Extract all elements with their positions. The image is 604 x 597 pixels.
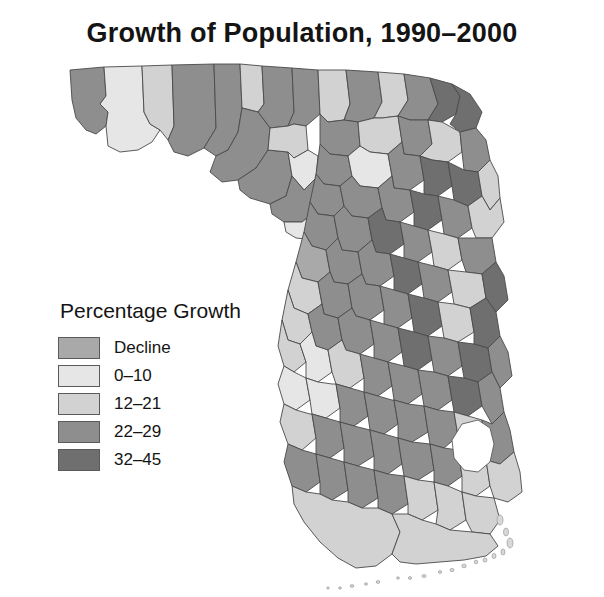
legend-swatch-0-10 (58, 365, 100, 387)
county-shape (318, 70, 350, 122)
legend-swatch-32-45 (58, 449, 100, 471)
county-shape (448, 376, 482, 416)
map-legend: Percentage Growth Decline 0–10 12–21 22–… (58, 299, 288, 475)
county-shape (306, 378, 340, 418)
county-shape (316, 454, 348, 500)
legend-item-12-21[interactable]: 12–21 (58, 391, 288, 416)
legend-swatch-decline (58, 337, 100, 359)
county-shape (420, 156, 452, 196)
county-shape (284, 444, 320, 492)
key-isle (492, 554, 496, 559)
key-isle (365, 583, 368, 585)
county-shape (336, 384, 368, 426)
legend-label: 12–21 (114, 394, 161, 414)
legend-label: 0–10 (114, 366, 152, 386)
legend-title: Percentage Growth (60, 299, 288, 323)
county-shape (374, 470, 408, 514)
key-isle (408, 577, 411, 580)
key-isle (339, 587, 342, 589)
figure-root: Growth of Population, 1990–2000 (0, 0, 604, 597)
key-isle (501, 549, 505, 555)
county-shape (468, 196, 504, 238)
key-isle (327, 587, 330, 589)
county-shape (398, 438, 434, 480)
key-isle (438, 571, 441, 574)
legend-item-32-45[interactable]: 32–45 (58, 447, 288, 472)
county-shape (434, 482, 466, 530)
key-isle (507, 538, 513, 548)
map-region-panhandle (70, 64, 332, 240)
legend-label: Decline (114, 338, 171, 358)
county-shape (410, 190, 442, 230)
legend-label: 32–45 (114, 450, 161, 470)
key-isle (474, 560, 478, 564)
key-isle (450, 568, 454, 571)
county-shape (438, 302, 474, 342)
county-shape (404, 476, 438, 520)
county-shape (312, 414, 344, 458)
county-shape (394, 400, 428, 442)
legend-label: 22–29 (114, 422, 161, 442)
county-shape (462, 492, 500, 534)
county-shape (364, 392, 398, 434)
key-isle (504, 528, 509, 536)
key-isle (462, 564, 466, 568)
county-shape (340, 422, 374, 466)
county-shape (344, 462, 378, 508)
legend-swatch-22-29 (58, 421, 100, 443)
county-shape (428, 336, 462, 376)
legend-item-0-10[interactable]: 0–10 (58, 363, 288, 388)
key-isle (376, 581, 380, 584)
legend-swatch-12-21 (58, 393, 100, 415)
key-isle (483, 558, 487, 562)
key-isle (422, 575, 426, 578)
county-shape (240, 64, 264, 112)
county-shape (370, 430, 402, 474)
legend-item-decline[interactable]: Decline (58, 335, 288, 360)
key-isle (497, 515, 503, 525)
legend-item-22-29[interactable]: 22–29 (58, 419, 288, 444)
key-isle (350, 585, 354, 588)
key-isle (397, 577, 400, 579)
county-shape (418, 370, 452, 410)
